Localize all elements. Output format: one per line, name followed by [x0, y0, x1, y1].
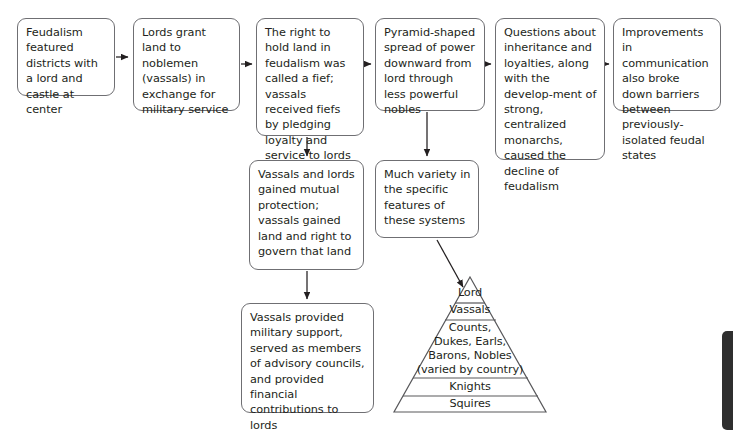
- flow-box-lords-grant-land[interactable]: Lords grant land to noblemen (vassals) i…: [133, 18, 240, 111]
- arrow-box8-pyramid: [437, 240, 463, 287]
- flow-box-text: Vassals provided military support, serve…: [250, 310, 366, 430]
- flow-box-text: Much variety in the specific features of…: [384, 167, 471, 229]
- pyramid-tier-nobles-line2: Dukes, Earls,: [420, 335, 520, 350]
- flow-box-decline-of-feudalism[interactable]: Questions about inheritance and loyaltie…: [495, 18, 605, 160]
- diagram-canvas: Feudalism featured districts with a lord…: [0, 0, 733, 430]
- pyramid-tier-lord: Lord: [420, 286, 520, 301]
- pyramid-tier-nobles-line1: Counts,: [420, 321, 520, 336]
- flow-box-text: Questions about inheritance and loyaltie…: [504, 25, 597, 194]
- pyramid-tier-nobles-line4: (varied by country): [405, 363, 535, 378]
- flow-box-much-variety[interactable]: Much variety in the specific features of…: [375, 160, 479, 238]
- flow-box-communication-improvements[interactable]: Improvements in communication also broke…: [613, 18, 721, 111]
- pyramid-tier-vassals: Vassals: [420, 303, 520, 318]
- flow-box-text: Improvements in communication also broke…: [622, 25, 713, 164]
- flow-box-text: Pyramid-shaped spread of power downward …: [384, 25, 477, 117]
- flow-box-mutual-protection[interactable]: Vassals and lords gained mutual protecti…: [249, 160, 364, 270]
- pyramid-tier-nobles-line3: Barons, Nobles: [420, 349, 520, 364]
- flow-box-text: Vassals and lords gained mutual protecti…: [258, 167, 356, 259]
- flow-box-pyramid-power[interactable]: Pyramid-shaped spread of power downward …: [375, 18, 485, 111]
- flow-box-feudalism-districts[interactable]: Feudalism featured districts with a lord…: [17, 18, 115, 96]
- flow-box-fief-definition[interactable]: The right to hold land in feudalism was …: [256, 18, 364, 136]
- flow-box-vassals-provided-support[interactable]: Vassals provided military support, serve…: [241, 303, 374, 413]
- flow-box-text: Feudalism featured districts with a lord…: [26, 25, 107, 117]
- flow-box-text: Lords grant land to noblemen (vassals) i…: [142, 25, 232, 117]
- vertical-scrollbar-thumb[interactable]: [722, 331, 733, 430]
- flow-box-text: The right to hold land in feudalism was …: [265, 25, 356, 164]
- pyramid-tier-knights: Knights: [420, 380, 520, 395]
- pyramid-tier-squires: Squires: [420, 397, 520, 412]
